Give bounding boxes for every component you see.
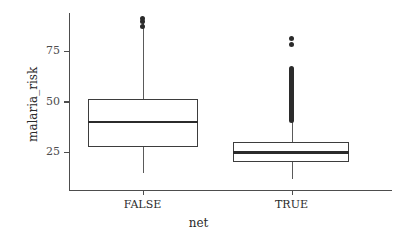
x-tick-label-false: FALSE <box>103 198 183 211</box>
whisker-upper-true <box>292 122 293 143</box>
x-tick-mark-false <box>143 190 144 195</box>
y-tick-mark-25 <box>64 152 69 153</box>
y-tick-label-25: 25 <box>36 145 60 158</box>
x-tick-mark-true <box>292 190 293 195</box>
whisker-upper-false <box>143 22 144 99</box>
x-axis-title: net <box>0 216 397 230</box>
outlier-point <box>289 36 294 41</box>
outlier-cluster <box>289 66 294 123</box>
outlier-point <box>140 24 145 29</box>
x-tick-label-true: TRUE <box>252 198 332 211</box>
y-axis-line <box>69 13 70 191</box>
median-line-true <box>233 151 349 154</box>
y-tick-mark-75 <box>64 51 69 52</box>
whisker-lower-false <box>143 147 144 173</box>
boxplot-figure: 75 50 25 malaria_risk FALSE TRUE net <box>0 0 397 235</box>
y-tick-label-75: 75 <box>36 44 60 57</box>
y-axis-title: malaria_risk <box>26 67 40 142</box>
median-line-false <box>88 121 198 124</box>
x-axis-line <box>69 190 392 191</box>
y-tick-mark-50 <box>64 101 69 102</box>
whisker-lower-true <box>292 162 293 179</box>
outlier-point <box>289 42 294 47</box>
